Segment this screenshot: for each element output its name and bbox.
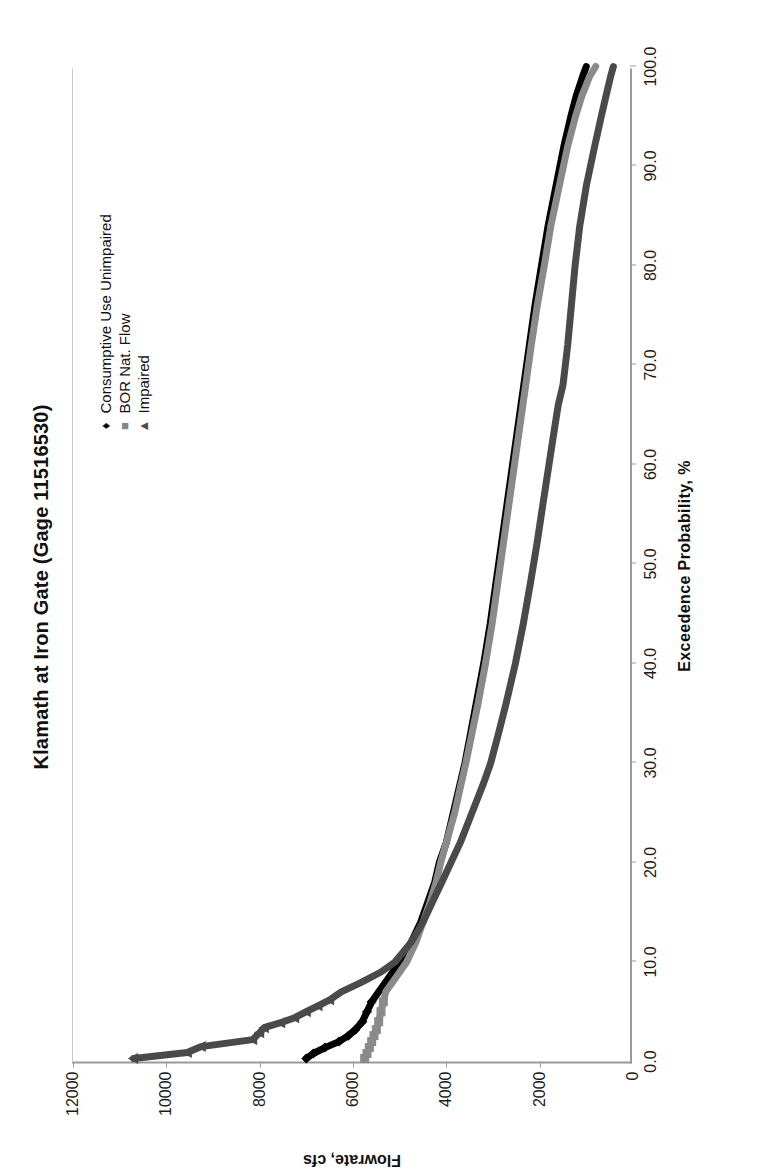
series-3	[128, 66, 614, 1064]
y-tick-mark	[540, 1061, 541, 1067]
plot-box: 020004000600080001000012000 0.010.020.03…	[72, 68, 632, 1063]
x-tick-label: 0.0	[630, 1050, 660, 1072]
series-line	[134, 66, 614, 1058]
series-line	[306, 66, 586, 1058]
legend-item-label: BOR Nat. Flow	[115, 313, 134, 413]
legend-item-3[interactable]: ▲Impaired	[134, 214, 153, 433]
x-tick-mark	[630, 762, 636, 763]
series-2	[360, 66, 596, 1063]
data-point-marker	[374, 1017, 383, 1026]
diamond-marker-icon: ♦	[99, 418, 112, 433]
x-tick-mark	[630, 264, 636, 265]
data-point-marker	[377, 1007, 386, 1016]
series-svg	[73, 66, 633, 1061]
y-tick-mark	[446, 1061, 447, 1067]
x-tick-mark	[630, 961, 636, 962]
x-tick-mark	[630, 463, 636, 464]
series-line	[365, 66, 596, 1058]
y-axis-label: Flowrate, cfs	[303, 1150, 401, 1168]
legend-item-1[interactable]: ♦Consumptive Use Unimpaired	[96, 214, 115, 433]
y-tick-mark	[73, 1061, 74, 1067]
legend-item-2[interactable]: ■BOR Nat. Flow	[115, 214, 134, 433]
y-tick-label: 4000	[437, 1061, 455, 1107]
legend-item-label: Consumptive Use Unimpaired	[96, 214, 115, 413]
y-tick-mark	[260, 1061, 261, 1067]
data-point-marker	[379, 997, 388, 1006]
triangle-marker-icon: ▲	[137, 418, 150, 433]
series-1	[301, 66, 586, 1063]
x-tick-mark	[630, 662, 636, 663]
x-tick-mark	[630, 165, 636, 166]
y-tick-mark	[166, 1061, 167, 1067]
chart-plot-area: Klamath at Iron Gate (Gage 11516530) Flo…	[0, 0, 764, 1173]
square-marker-icon: ■	[118, 418, 131, 433]
y-tick-label: 6000	[344, 1061, 362, 1107]
chart-title: Klamath at Iron Gate (Gage 11516530)	[30, 0, 53, 1173]
chart-legend: ♦Consumptive Use Unimpaired■BOR Nat. Flo…	[96, 214, 154, 433]
y-tick-mark	[353, 1061, 354, 1067]
y-tick-label: 2000	[531, 1061, 549, 1107]
series-container	[73, 68, 630, 1061]
x-tick-mark	[630, 861, 636, 862]
chart-canvas: Klamath at Iron Gate (Gage 11516530) Flo…	[0, 0, 764, 1173]
x-tick-mark	[630, 563, 636, 564]
x-axis-label: Exceedence Probability, %	[676, 68, 694, 1063]
legend-item-label: Impaired	[134, 355, 153, 413]
y-tick-label: 10000	[157, 1061, 175, 1116]
x-tick-mark	[630, 364, 636, 365]
y-tick-label: 12000	[64, 1061, 82, 1116]
y-tick-label: 8000	[251, 1061, 269, 1107]
x-tick-mark	[630, 65, 636, 66]
